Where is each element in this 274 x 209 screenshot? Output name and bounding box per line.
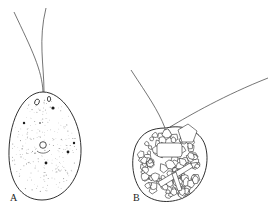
stipple-dot [37,186,38,187]
stipple-dot [61,170,62,171]
stipple-dot [37,133,38,134]
stipple-dot [63,181,64,182]
panel-b [131,70,268,202]
stipple-dot [30,138,31,139]
panel-a-granule [67,151,70,154]
stipple-dot [56,184,57,185]
stipple-dot [67,172,68,173]
stipple-dot [66,180,67,181]
stipple-dot [70,149,71,150]
stipple-dot [48,151,49,152]
stipple-dot [36,105,37,106]
stipple-dot [40,137,41,138]
stipple-dot [35,152,36,153]
stipple-dot [56,168,57,169]
stipple-dot [32,189,33,190]
stipple-dot [63,178,64,179]
stipple-dot [18,131,19,132]
stipple-dot [47,179,48,180]
stipple-dot [52,170,53,171]
stipple-dot [30,125,31,126]
panel-a-granule [73,142,75,144]
panel-a-flagellum-1 [14,12,43,92]
stipple-dot [19,134,20,135]
stipple-dot [46,175,47,176]
stipple-dot [14,159,15,160]
stipple-dot [38,161,39,162]
stipple-dot [65,139,66,140]
stipple-dot [66,145,67,146]
stipple-dot [20,156,21,157]
stipple-dot [43,102,44,103]
stipple-dot [27,133,28,134]
stipple-dot [62,152,63,153]
stipple-dot [16,154,17,155]
stipple-dot [58,129,59,130]
stipple-dot [17,136,18,137]
test-particle [188,143,193,149]
stipple-dot [12,143,13,144]
stipple-dot [20,169,21,170]
stipple-dot [34,121,35,122]
stipple-dot [34,184,35,185]
stipple-dot [44,181,45,182]
stipple-dot [34,112,35,113]
stipple-dot [20,154,21,155]
stipple-dot [45,118,46,119]
stipple-dot [65,126,66,127]
stipple-dot [43,175,44,176]
stipple-dot [60,164,61,165]
stipple-dot [49,144,50,145]
stipple-dot [51,163,52,164]
stipple-dot [68,175,69,176]
stipple-dot [66,145,67,146]
stipple-dot [61,125,62,126]
stipple-dot [61,145,62,146]
stipple-dot [36,148,37,149]
stipple-dot [37,137,38,138]
stipple-dot [69,138,70,139]
stipple-dot [30,163,31,164]
stipple-dot [50,129,51,130]
stipple-dot [52,163,53,164]
stipple-dot [59,151,60,152]
stipple-dot [67,154,68,155]
stipple-dot [58,166,59,167]
stipple-dot [63,167,64,168]
stipple-dot [26,139,27,140]
stipple-dot [27,108,28,109]
stipple-dot [23,158,24,159]
stipple-dot [53,140,54,141]
stipple-dot [62,140,63,141]
stipple-dot [48,148,49,149]
stipple-dot [46,191,47,192]
stipple-dot [44,168,45,169]
stipple-dot [44,103,45,104]
stipple-dot [64,167,65,168]
stipple-dot [65,170,66,171]
stipple-dot [62,166,63,167]
stipple-dot [56,138,57,139]
stipple-dot [51,154,52,155]
stipple-dot [42,132,43,133]
stipple-dot [47,122,48,123]
stipple-dot [57,167,58,168]
stipple-dot [57,144,58,145]
panel-a-granule [23,122,25,124]
stipple-dot [66,124,67,125]
stipple-dot [48,178,49,179]
stipple-dot [55,169,56,170]
stipple-dot [26,117,27,118]
stipple-dot [35,106,36,107]
stipple-dot [59,148,60,149]
stipple-dot [42,122,43,123]
stipple-dot [51,99,52,100]
stipple-dot [74,146,75,147]
panel-a [9,8,81,200]
stipple-dot [64,128,65,129]
stipple-dot [73,152,74,153]
stipple-dot [47,130,48,131]
stipple-dot [51,101,52,102]
stipple-dot [31,118,32,119]
stipple-dot [19,150,20,151]
